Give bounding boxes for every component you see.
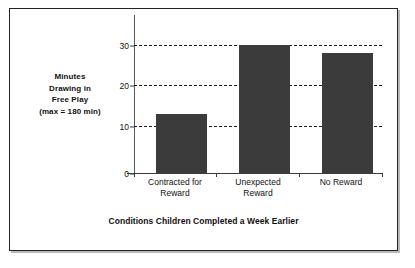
y-tick-mark-10 <box>130 126 134 127</box>
y-axis-caption-line-1: Minutes <box>18 71 122 83</box>
category-label-line-1: No Reward <box>296 177 386 188</box>
y-axis-caption-line-2: Drawing in <box>18 83 122 95</box>
bar-unexpected-reward <box>239 45 290 174</box>
category-label-line-1: Contracted for <box>130 177 220 188</box>
y-tick-label-10: 10 <box>120 122 129 132</box>
y-axis-caption: Minutes Drawing in Free Play (max = 180 … <box>18 71 122 117</box>
category-label-line-1: Unexpected <box>213 177 303 188</box>
y-tick-mark-20 <box>130 86 134 87</box>
bar-no-reward <box>322 53 373 174</box>
y-tick-mark-30 <box>130 46 134 47</box>
bar-contracted-for-reward <box>156 114 207 174</box>
category-label-no-reward: No Reward <box>296 177 386 188</box>
y-tick-label-30: 30 <box>120 41 129 51</box>
x-axis-category-labels: Contracted for Reward Unexpected Reward … <box>134 177 382 207</box>
y-tick-label-0: 0 <box>124 169 129 179</box>
x-axis-title: Conditions Children Completed a Week Ear… <box>10 216 397 226</box>
y-axis-caption-line-3: Free Play <box>18 94 122 106</box>
category-label-line-2: Reward <box>130 188 220 199</box>
plot-area: 30 20 10 0 <box>134 29 382 174</box>
y-axis-line <box>134 15 135 174</box>
category-label-contracted-for-reward: Contracted for Reward <box>130 177 220 199</box>
chart-figure-frame: Minutes Drawing in Free Play (max = 180 … <box>9 8 398 251</box>
category-label-line-2: Reward <box>213 188 303 199</box>
category-label-unexpected-reward: Unexpected Reward <box>213 177 303 199</box>
y-axis-caption-line-4: (max = 180 min) <box>18 106 122 118</box>
y-tick-label-20: 20 <box>120 81 129 91</box>
